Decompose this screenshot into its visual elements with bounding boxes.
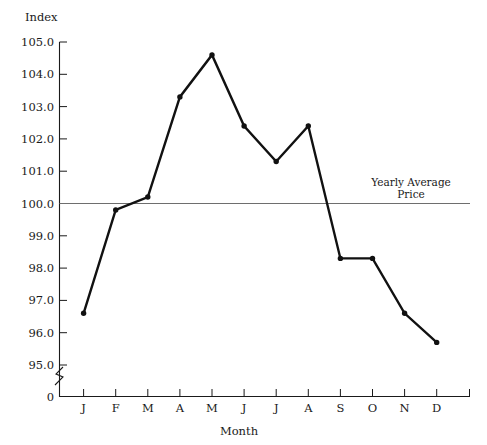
data-point — [306, 123, 311, 128]
x-tick-oct: O — [368, 389, 377, 415]
y-tick-96: 96.0 — [28, 326, 67, 340]
x-tick-nov: N — [400, 389, 410, 415]
y-tick-label: 101.0 — [21, 164, 54, 178]
y-tick-104: 104.0 — [21, 67, 67, 81]
x-tick-feb: F — [112, 389, 120, 415]
y-tick-label: 102.0 — [21, 132, 54, 146]
x-tick-jul: J — [273, 389, 279, 415]
y-tick-label: 100.0 — [21, 197, 54, 211]
x-tick-jan: J — [80, 389, 86, 415]
y-tick-103: 103.0 — [21, 100, 67, 114]
y-tick-97: 97.0 — [28, 293, 67, 307]
data-point — [81, 311, 86, 316]
data-point — [338, 256, 343, 261]
x-axis-title: Month — [220, 424, 259, 438]
y-axis-title: Index — [25, 10, 58, 24]
y-tick-99: 99.0 — [28, 229, 67, 243]
x-tick-label: M — [142, 401, 154, 415]
x-tick-jun: J — [241, 389, 247, 415]
chart-canvas: Index 105.0 104.0 103.0 — [0, 0, 487, 445]
data-point — [274, 159, 279, 164]
x-tick-label: J — [273, 401, 279, 415]
data-point — [434, 340, 439, 345]
x-tick-label: A — [175, 401, 185, 415]
x-tick-aug: A — [303, 389, 313, 415]
y-tick-101: 101.0 — [21, 164, 67, 178]
y-tick-zero: 0 — [47, 390, 54, 404]
y-tick-label: 104.0 — [21, 67, 54, 81]
data-point — [113, 207, 118, 212]
y-tick-98: 98.0 — [28, 261, 67, 275]
yearly-average-price-label-line2: Price — [397, 188, 425, 200]
y-tick-label: 105.0 — [21, 35, 54, 49]
x-tick-label: M — [206, 401, 218, 415]
data-point — [370, 256, 375, 261]
x-tick-sep: S — [336, 389, 344, 415]
data-point — [241, 123, 246, 128]
index-by-month-line-chart: Index 105.0 104.0 103.0 — [0, 0, 487, 445]
x-tick-may: M — [206, 389, 218, 415]
x-tick-dec: D — [432, 389, 441, 415]
x-tick-mar: M — [142, 389, 154, 415]
y-tick-label: 103.0 — [21, 100, 54, 114]
data-point — [177, 94, 182, 99]
y-tick-label: 97.0 — [28, 293, 54, 307]
y-axis-title-group: Index — [25, 10, 58, 24]
x-tick-label: D — [432, 401, 441, 415]
x-tick-label: F — [112, 401, 120, 415]
index-series-line — [84, 55, 437, 342]
y-tick-label: 98.0 — [28, 261, 54, 275]
yearly-average-price-label-line1: Yearly Average — [370, 176, 451, 188]
y-tick-label: 96.0 — [28, 326, 54, 340]
y-tick-102: 102.0 — [21, 132, 67, 146]
y-tick-label-zero: 0 — [47, 390, 54, 404]
x-tick-label: S — [336, 401, 344, 415]
y-tick-105: 105.0 — [21, 35, 67, 49]
x-tick-label: A — [303, 401, 313, 415]
x-axis-title-group: Month — [220, 424, 259, 438]
x-tick-label: J — [241, 401, 247, 415]
data-point — [209, 52, 214, 57]
y-axis-ticks: 105.0 104.0 103.0 102.0 101.0 100.0 — [21, 35, 67, 404]
x-tick-label: N — [400, 401, 410, 415]
y-tick-95: 95.0 — [28, 358, 67, 372]
x-tick-apr: A — [175, 389, 185, 415]
x-tick-label: J — [80, 401, 86, 415]
data-point — [145, 194, 150, 199]
x-axis-ticks: J F M A M J J — [80, 389, 469, 415]
y-tick-label: 95.0 — [28, 358, 54, 372]
index-series-markers — [81, 52, 440, 345]
y-tick-label: 99.0 — [28, 229, 54, 243]
x-tick-label: O — [368, 401, 377, 415]
data-point — [402, 311, 407, 316]
index-series — [81, 52, 440, 345]
yearly-average-price-reference: Yearly Average Price — [60, 176, 471, 204]
